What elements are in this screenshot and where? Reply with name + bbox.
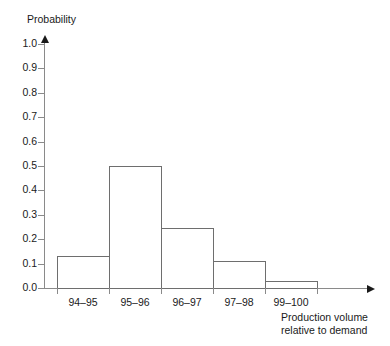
y-axis-tick: [38, 142, 44, 143]
y-axis-tick-label: 0.8: [22, 87, 37, 98]
x-axis-title-line-2: relative to demand: [281, 324, 368, 337]
y-axis-tick-label: 0.5: [22, 160, 37, 171]
histogram-bar: [265, 281, 318, 289]
histogram-bar: [109, 166, 162, 289]
x-axis-tick-label: 94–95: [57, 296, 109, 308]
y-axis-tick-label: 0.4: [22, 184, 37, 195]
y-axis-title: Probability: [27, 13, 76, 25]
y-axis-tick: [38, 166, 44, 167]
y-axis-tick-label: 0.9: [22, 62, 37, 73]
y-axis-tick: [38, 190, 44, 191]
histogram-bar: [213, 261, 266, 289]
y-axis-tick-label: 0.0: [22, 282, 37, 293]
y-axis-line: [44, 42, 45, 289]
y-axis-tick: [38, 68, 44, 69]
x-axis-tick-label: 99–100: [265, 296, 317, 308]
y-axis-tick-label: 0.3: [22, 209, 37, 220]
x-axis-tick-label: 97–98: [213, 296, 265, 308]
y-axis-tick: [38, 93, 44, 94]
x-axis-title-line-1: Production volume: [281, 311, 368, 324]
x-axis-tick: [213, 288, 214, 294]
histogram-bar: [161, 228, 214, 289]
y-axis-tick: [38, 288, 44, 289]
x-axis-tick: [265, 288, 266, 294]
y-axis-arrow-icon: [41, 35, 49, 43]
y-axis-tick: [38, 44, 44, 45]
x-axis-tick: [57, 288, 58, 294]
y-axis-tick-label: 0.1: [22, 258, 37, 269]
y-axis-tick-label: 0.6: [22, 136, 37, 147]
y-axis-tick: [38, 239, 44, 240]
x-axis-tick: [109, 288, 110, 294]
x-axis-tick-label: 96–97: [161, 296, 213, 308]
x-axis-tick-label: 95–96: [109, 296, 161, 308]
probability-histogram-chart: Probability 0.00.10.20.30.40.50.60.70.80…: [0, 0, 390, 346]
y-axis-tick-label: 0.7: [22, 111, 37, 122]
y-axis-tick: [38, 264, 44, 265]
y-axis-tick-label: 1.0: [22, 38, 37, 49]
x-axis-arrow-icon: [367, 285, 375, 293]
x-axis-tick: [161, 288, 162, 294]
y-axis-tick-label: 0.2: [22, 233, 37, 244]
histogram-bar: [57, 256, 110, 289]
y-axis-tick: [38, 117, 44, 118]
x-axis-title: Production volume relative to demand: [281, 311, 368, 337]
y-axis-tick: [38, 215, 44, 216]
x-axis-tick: [317, 288, 318, 294]
